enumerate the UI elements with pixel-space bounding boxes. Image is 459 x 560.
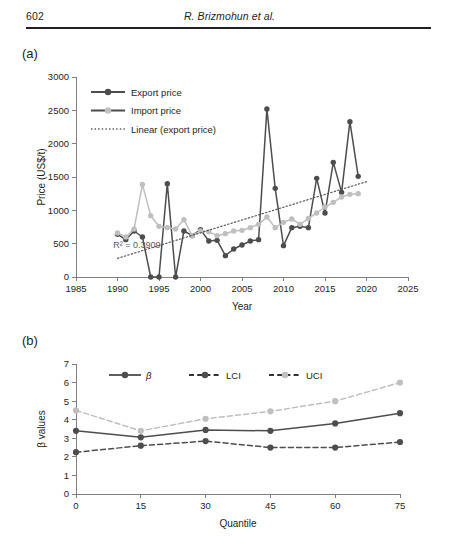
data-point	[297, 222, 302, 227]
x-tick-label: 30	[200, 500, 211, 511]
x-tick-label: 1985	[65, 283, 86, 294]
legend-marker	[282, 372, 288, 378]
data-point	[314, 210, 319, 215]
y-tick-label: 0	[64, 271, 69, 282]
data-point	[181, 217, 186, 222]
data-point	[347, 192, 352, 197]
y-tick-label: 5	[64, 396, 69, 407]
data-point	[273, 225, 278, 230]
data-point	[148, 213, 153, 218]
x-tick-label: 2005	[231, 283, 252, 294]
data-point	[165, 181, 170, 186]
data-point	[173, 274, 178, 279]
data-point	[273, 186, 278, 191]
data-point	[322, 204, 327, 209]
running-head: 602 R. Brizmohun et al.	[0, 0, 459, 34]
annotation-r2: R² = 0.3909	[113, 240, 160, 250]
figure-page: 602 R. Brizmohun et al. (a) (b) 05001000…	[0, 0, 459, 560]
data-point	[203, 438, 209, 444]
legend-label: β	[145, 370, 152, 381]
data-point	[165, 225, 170, 230]
x-tick-label: 2015	[314, 283, 335, 294]
data-point	[332, 398, 338, 404]
x-tick-label: 45	[265, 500, 276, 511]
x-axis-title: Year	[232, 301, 253, 312]
data-point	[397, 439, 403, 445]
series-line	[76, 383, 400, 431]
panel-a-label: (a)	[22, 46, 38, 61]
data-point	[314, 176, 319, 181]
data-point	[156, 224, 161, 229]
y-tick-label: 3	[64, 433, 69, 444]
data-point	[231, 246, 236, 251]
data-point	[306, 216, 311, 221]
data-point	[267, 428, 273, 434]
series-line	[118, 184, 359, 237]
y-tick-label: 4	[64, 414, 69, 425]
data-point	[248, 225, 253, 230]
legend-label: Import price	[131, 105, 181, 116]
data-point	[140, 234, 145, 239]
data-point	[73, 407, 79, 413]
data-point	[332, 420, 338, 426]
data-point	[289, 225, 294, 230]
data-point	[123, 234, 128, 239]
x-tick-label: 2010	[273, 283, 294, 294]
data-point	[214, 233, 219, 238]
data-point	[239, 228, 244, 233]
y-tick-label: 0	[64, 488, 69, 499]
data-point	[73, 449, 79, 455]
data-point	[264, 214, 269, 219]
y-tick-label: 7	[64, 358, 69, 369]
data-point	[248, 238, 253, 243]
y-tick-label: 500	[53, 238, 69, 249]
data-point	[115, 230, 120, 235]
y-tick-label: 1000	[48, 205, 69, 216]
data-point	[339, 194, 344, 199]
data-point	[397, 410, 403, 416]
data-point	[223, 253, 228, 258]
data-point	[131, 226, 136, 231]
x-tick-label: 1990	[107, 283, 128, 294]
data-point	[281, 243, 286, 248]
x-tick-label: 2025	[397, 283, 418, 294]
legend-marker	[202, 372, 208, 378]
data-point	[356, 174, 361, 179]
data-point	[331, 160, 336, 165]
x-tick-label: 75	[395, 500, 406, 511]
data-point	[206, 238, 211, 243]
data-point	[173, 226, 178, 231]
legend-label: UCI	[306, 370, 322, 381]
x-tick-label: 2020	[356, 283, 377, 294]
data-point	[138, 434, 144, 440]
series-line	[76, 441, 400, 452]
data-point	[356, 191, 361, 196]
chart-b-canvas: 0123456701530456075Quantileβ valuesβLCIU…	[0, 350, 459, 555]
data-point	[331, 200, 336, 205]
panel-b-label: (b)	[22, 333, 38, 348]
series-2	[73, 379, 403, 433]
y-tick-label: 1500	[48, 171, 69, 182]
data-point	[140, 182, 145, 187]
data-point	[256, 237, 261, 242]
running-title: R. Brizmohun et al.	[0, 10, 459, 22]
data-point	[73, 428, 79, 434]
data-point	[239, 242, 244, 247]
data-point	[267, 444, 273, 450]
data-point	[203, 416, 209, 422]
y-tick-label: 2	[64, 451, 69, 462]
y-tick-label: 2000	[48, 138, 69, 149]
data-point	[203, 427, 209, 433]
chart-a-canvas: 0500100015002000250030001985199019952000…	[0, 62, 459, 322]
data-point	[339, 190, 344, 195]
data-point	[138, 443, 144, 449]
data-point	[181, 228, 186, 233]
x-tick-label: 15	[136, 500, 147, 511]
chart-panel-a: 0500100015002000250030001985199019952000…	[0, 62, 459, 322]
y-tick-label: 3000	[48, 71, 69, 82]
legend-label: LCI	[226, 370, 241, 381]
y-axis-title: Price (US$/t)	[36, 148, 47, 205]
legend-marker	[105, 107, 111, 113]
data-point	[214, 238, 219, 243]
data-point	[156, 274, 161, 279]
